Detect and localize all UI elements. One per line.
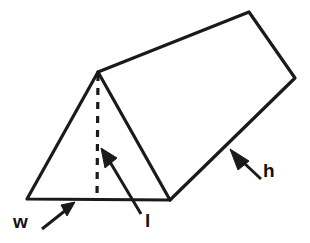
w-leader-line — [42, 210, 66, 229]
triangular-prism-figure: w l h — [0, 0, 310, 243]
prism-drawing — [0, 0, 310, 243]
h-leader-line — [244, 163, 261, 179]
dimension-label-l: l — [145, 211, 150, 230]
dimension-label-h: h — [263, 161, 275, 180]
dimension-label-w: w — [13, 212, 28, 231]
